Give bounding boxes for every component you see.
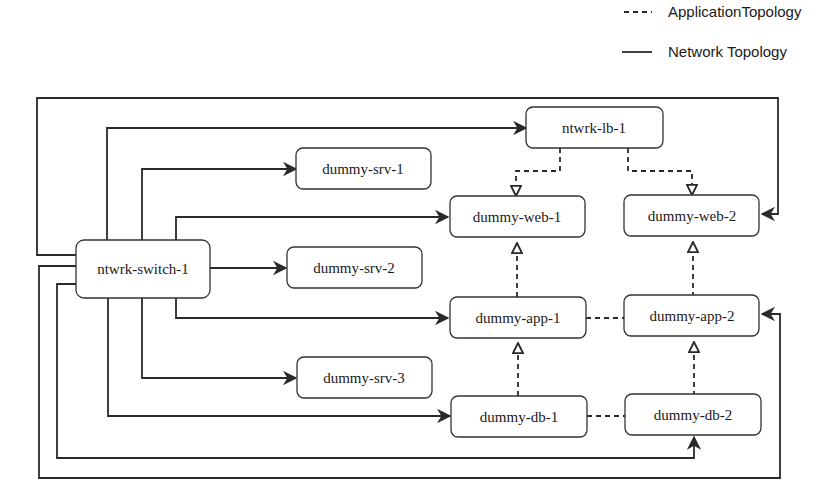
node-label: dummy-db-2 [654, 407, 732, 423]
node-label: dummy-app-1 [476, 310, 561, 326]
node-dummy-srv-3[interactable]: dummy-srv-3 [297, 357, 432, 398]
node-label: dummy-srv-3 [323, 370, 405, 386]
node-dummy-app-2[interactable]: dummy-app-2 [624, 295, 759, 336]
node-dummy-db-1[interactable]: dummy-db-1 [451, 396, 587, 437]
legend: ApplicationTopology Network Topology [622, 3, 802, 60]
node-label: dummy-app-2 [650, 308, 735, 324]
node-label: ntwrk-switch-1 [97, 261, 189, 277]
node-dummy-srv-1[interactable]: dummy-srv-1 [296, 148, 431, 189]
node-dummy-app-1[interactable]: dummy-app-1 [450, 297, 586, 338]
node-label: dummy-srv-1 [322, 161, 404, 177]
edge-lb1-web1 [516, 148, 560, 196]
node-dummy-srv-2[interactable]: dummy-srv-2 [287, 247, 422, 288]
topology-diagram: ApplicationTopology Network Topology [0, 0, 839, 503]
edge-lb1-web2 [628, 148, 692, 195]
node-label: dummy-srv-2 [313, 260, 395, 276]
legend-item-application: ApplicationTopology [624, 3, 802, 20]
node-label: ntwrk-lb-1 [562, 120, 626, 136]
edge-switch-web1 [176, 217, 448, 240]
legend-item-network: Network Topology [622, 43, 787, 60]
application-edges [516, 148, 694, 416]
node-dummy-db-2[interactable]: dummy-db-2 [625, 394, 761, 435]
node-ntwrk-switch-1[interactable]: ntwrk-switch-1 [76, 240, 210, 298]
edge-switch-srv3 [142, 298, 296, 378]
edge-switch-app1 [176, 298, 448, 318]
edge-switch-srv1 [142, 169, 296, 240]
node-label: dummy-web-2 [648, 208, 736, 224]
node-label: dummy-web-1 [473, 209, 561, 225]
node-ntwrk-lb-1[interactable]: ntwrk-lb-1 [526, 107, 663, 148]
legend-label-network: Network Topology [668, 43, 787, 60]
node-label: dummy-db-1 [480, 409, 558, 425]
node-dummy-web-2[interactable]: dummy-web-2 [624, 195, 759, 236]
legend-label-application: ApplicationTopology [668, 3, 802, 20]
node-dummy-web-1[interactable]: dummy-web-1 [450, 196, 585, 237]
